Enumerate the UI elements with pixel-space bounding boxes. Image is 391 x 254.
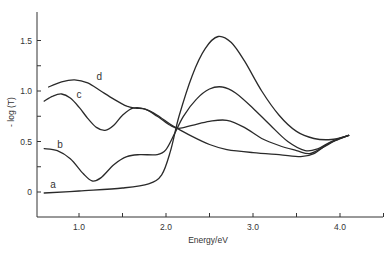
- x-axis-label: Energy/eV: [188, 235, 228, 245]
- curve-b: [44, 87, 349, 181]
- y-tick-label: 0.5: [20, 137, 32, 147]
- y-tick-label: 0: [27, 187, 32, 197]
- y-ticks: 00.51.01.5: [20, 36, 41, 198]
- curve-a: [44, 36, 349, 193]
- curve-c: [44, 94, 349, 154]
- y-tick-label: 1.5: [20, 36, 32, 46]
- x-tick-label: 2.0: [160, 222, 172, 232]
- x-tick-label: 3.0: [247, 222, 259, 232]
- series-label-a: a: [50, 179, 56, 190]
- absorbance-chart: 1.02.03.04.0 00.51.01.5 abcd Energy/eV -…: [0, 0, 391, 254]
- y-tick-label: 1.0: [20, 86, 32, 96]
- series-label-c: c: [76, 89, 81, 100]
- x-tick-label: 4.0: [334, 222, 346, 232]
- x-ticks: 1.02.03.04.0: [73, 213, 383, 232]
- curve-d: [49, 80, 349, 157]
- y-axis-label: - log (T): [6, 97, 16, 127]
- x-tick-label: 1.0: [73, 222, 85, 232]
- series-label-d: d: [96, 71, 102, 82]
- series-label-b: b: [57, 139, 63, 150]
- series-labels: abcd: [50, 71, 102, 190]
- curves: [44, 36, 349, 193]
